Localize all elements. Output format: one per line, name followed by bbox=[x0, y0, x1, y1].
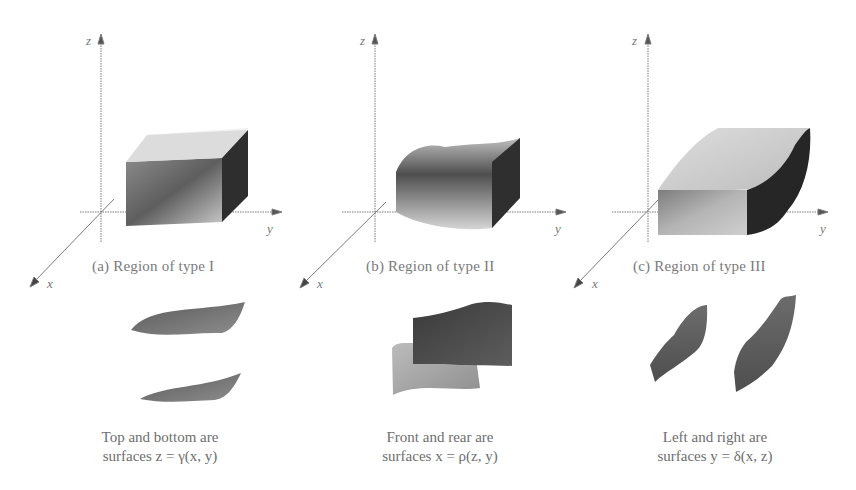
y-axis-label: y bbox=[555, 221, 561, 237]
front-rear-surfaces bbox=[392, 302, 512, 395]
caption-type-3: (c) Region of type III bbox=[633, 258, 766, 275]
x-axis-label: x bbox=[592, 276, 598, 292]
x-axis-label: x bbox=[47, 276, 53, 292]
description-line-1: Top and bottom are bbox=[60, 428, 260, 447]
region-type-3-diagram bbox=[570, 0, 856, 490]
region-type-2-diagram bbox=[280, 0, 570, 490]
z-axis-label: z bbox=[360, 33, 365, 49]
z-axis-label: z bbox=[632, 33, 637, 49]
caption-type-2: (b) Region of type II bbox=[366, 258, 494, 275]
description-line-2: surfaces z = γ(x, y) bbox=[60, 447, 260, 466]
description-type-2: Front and rear are surfaces x = ρ(z, y) bbox=[340, 428, 540, 466]
panel-type-3: z y x (c) Region of type III Left and ri… bbox=[570, 0, 855, 490]
x-axis-label: x bbox=[317, 276, 323, 292]
description-line-2: surfaces x = ρ(z, y) bbox=[340, 447, 540, 466]
left-right-surfaces bbox=[650, 295, 796, 392]
region-solid bbox=[396, 138, 520, 229]
description-line-2: surfaces y = δ(x, z) bbox=[615, 447, 815, 466]
description-line-1: Front and rear are bbox=[340, 428, 540, 447]
region-solid bbox=[126, 128, 248, 226]
panel-type-2: z y x (b) Region of type II Front and re… bbox=[280, 0, 565, 490]
description-line-1: Left and right are bbox=[615, 428, 815, 447]
y-axis-label: y bbox=[820, 221, 826, 237]
y-axis-label: y bbox=[267, 221, 273, 237]
panel-type-1: z y x (a) Region of type I Top and botto… bbox=[0, 0, 285, 490]
z-axis-label: z bbox=[86, 33, 91, 49]
top-bottom-surfaces bbox=[131, 302, 245, 402]
region-solid bbox=[658, 128, 810, 235]
description-type-3: Left and right are surfaces y = δ(x, z) bbox=[615, 428, 815, 466]
description-type-1: Top and bottom are surfaces z = γ(x, y) bbox=[60, 428, 260, 466]
caption-type-1: (a) Region of type I bbox=[92, 258, 214, 275]
region-type-1-diagram bbox=[0, 0, 285, 490]
